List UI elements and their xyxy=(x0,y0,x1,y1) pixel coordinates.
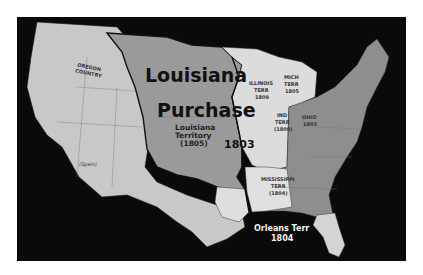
historical-map: Louisiana Purchase Louisiana Territory (… xyxy=(17,17,406,261)
label-ohio: OHIO xyxy=(302,115,317,120)
label-illinois-year: 1809 xyxy=(255,95,269,100)
label-indiana-1: IND xyxy=(277,113,287,118)
label-orleans: Orleans Terr xyxy=(254,225,309,233)
label-spain: (Spain) xyxy=(79,162,97,167)
label-indiana-year: (1800) xyxy=(274,127,293,132)
label-orleans-year: 1804 xyxy=(271,235,293,243)
label-michigan-2: TERR xyxy=(284,82,299,87)
label-louisiana: Louisiana xyxy=(145,66,247,86)
label-territory-year: (1805) xyxy=(180,140,208,148)
label-mississippi-year: (1804) xyxy=(269,191,288,196)
label-mississippi-1: MISSISSIPPI xyxy=(261,177,295,182)
label-michigan-year: 1805 xyxy=(285,89,299,94)
label-mississippi-2: TERR xyxy=(271,184,286,189)
label-illinois-2: TERR xyxy=(254,88,269,93)
label-purchase: Purchase xyxy=(157,101,256,121)
label-ohio-year: 1803 xyxy=(303,122,317,127)
label-purchase-year: 1803 xyxy=(224,139,255,151)
label-michigan-1: MICH xyxy=(284,75,299,80)
label-illinois-1: ILLINOIS xyxy=(249,81,273,86)
florida-region xyxy=(313,213,345,257)
label-indiana-2: TERR xyxy=(275,120,290,125)
